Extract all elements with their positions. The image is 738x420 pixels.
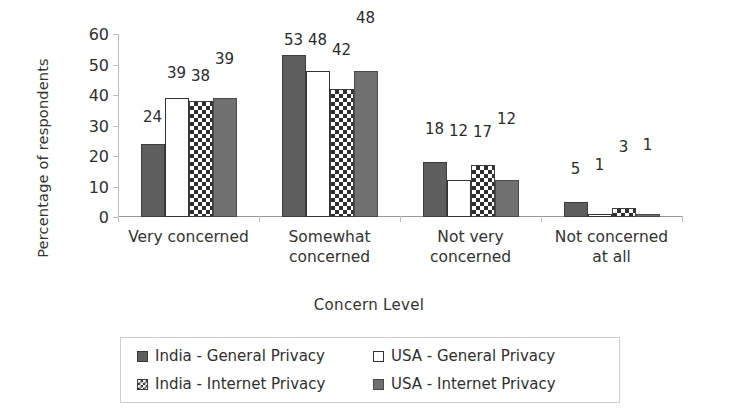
- legend-label-india-internet: India - Internet Privacy: [155, 375, 325, 393]
- bar: [447, 180, 471, 217]
- bar: [330, 89, 354, 217]
- bar-value-label: 39: [167, 64, 186, 82]
- bar-value-label: 39: [215, 50, 234, 68]
- bar-group: 53484248: [259, 34, 400, 217]
- legend-swatch-icon-usa-internet: [373, 379, 384, 390]
- bar: [423, 162, 447, 217]
- bar-value-label: 12: [449, 122, 468, 140]
- bar-value-label: 1: [643, 136, 653, 154]
- bar-value-label: 17: [473, 123, 492, 141]
- legend-swatch-icon-india-internet: [137, 379, 148, 390]
- bar: [354, 71, 378, 217]
- legend-item-india-internet[interactable]: India - Internet Privacy: [137, 375, 373, 393]
- bar-value-label: 53: [284, 31, 303, 49]
- bar: [282, 55, 306, 217]
- bar-value-label: 42: [332, 41, 351, 59]
- bar: [471, 165, 495, 217]
- bar-value-label: 12: [497, 110, 516, 128]
- bar: [213, 98, 237, 217]
- bar-group: 24393839: [118, 34, 259, 217]
- legend-label-usa-internet: USA - Internet Privacy: [391, 375, 556, 393]
- bar-value-label: 3: [619, 138, 629, 156]
- legend-swatch-icon-india-general: [137, 351, 148, 362]
- bar-value-label: 48: [356, 9, 375, 27]
- x-category-label-line: at all: [527, 248, 697, 268]
- legend-item-usa-internet[interactable]: USA - Internet Privacy: [373, 375, 609, 393]
- legend-swatch-icon-usa-general: [373, 351, 384, 362]
- bar-value-label: 48: [308, 31, 327, 49]
- bar: [189, 101, 213, 217]
- bar: [306, 71, 330, 217]
- bar-value-label: 18: [425, 120, 444, 138]
- legend-item-usa-general[interactable]: USA - General Privacy: [373, 347, 609, 365]
- bar: [165, 98, 189, 217]
- bar: [564, 202, 588, 217]
- bar-value-label: 38: [191, 67, 210, 85]
- bar-value-label: 5: [571, 160, 581, 178]
- bar-group: 5131: [541, 34, 682, 217]
- bar-value-label: 24: [143, 108, 162, 126]
- y-axis-title: Percentage of respondents: [35, 23, 51, 293]
- x-tick-mark: [682, 216, 683, 222]
- legend-item-india-general[interactable]: India - General Privacy: [137, 347, 373, 365]
- x-category-label: Not concernedat all: [527, 228, 697, 268]
- bar: [141, 144, 165, 217]
- x-category-label-line: Not concerned: [527, 228, 697, 248]
- chart-figure: Percentage of respondents 0102030405060 …: [0, 0, 738, 420]
- bar: [612, 208, 636, 217]
- bar: [495, 180, 519, 217]
- bar: [636, 214, 660, 217]
- bar-group: 18121712: [400, 34, 541, 217]
- chart-legend: India - General Privacy USA - General Pr…: [120, 337, 620, 403]
- legend-label-india-general: India - General Privacy: [155, 347, 325, 365]
- x-axis-title: Concern Level: [0, 296, 738, 314]
- plot-area: 0102030405060 24393839534842481812171251…: [118, 34, 682, 217]
- bar-value-label: 1: [595, 156, 605, 174]
- bar: [588, 214, 612, 217]
- legend-label-usa-general: USA - General Privacy: [391, 347, 555, 365]
